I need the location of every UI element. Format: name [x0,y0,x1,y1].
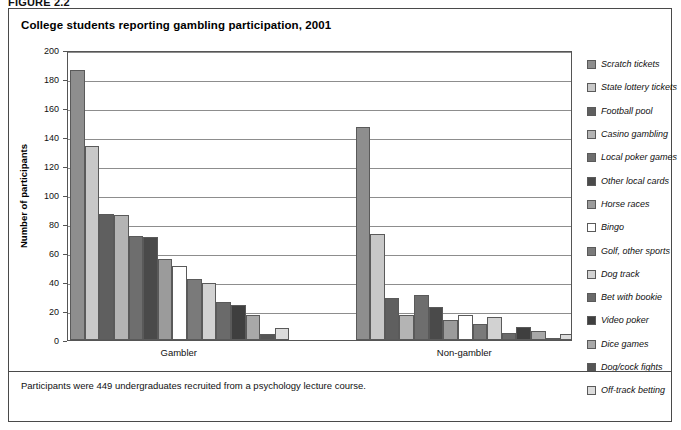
bar [429,307,444,340]
bar [458,315,473,340]
bar [216,302,231,340]
plot-area [67,51,572,341]
y-tick-label: 100 [33,191,59,201]
bar [231,305,246,340]
y-tick-label: 200 [33,46,59,56]
y-tick-label: 180 [33,75,59,85]
legend-item-label: Casino gambling [601,130,668,139]
footnote-divider [9,371,671,372]
bar [187,279,202,340]
legend-item-label: Local poker games [601,153,677,162]
legend-item[interactable]: Bingo [587,216,673,239]
bar [385,298,400,340]
bar [414,295,429,340]
gridline [68,52,571,53]
gridline [68,226,571,227]
legend-swatch-icon [587,83,596,92]
legend-item-label: Video poker [601,316,649,325]
bar [202,283,217,340]
legend-swatch-icon [587,107,596,116]
bar [531,331,546,340]
legend-item[interactable]: Bet with bookie [587,286,673,309]
legend-item[interactable]: Casino gambling [587,123,673,146]
plot-wrapper: Number of participants 02040608010012014… [67,51,572,356]
legend-item-label: Scratch tickets [601,60,660,69]
legend-swatch-icon [587,293,596,302]
legend-item[interactable]: Video poker [587,309,673,332]
legend-item[interactable]: Horse races [587,193,673,216]
legend-item[interactable]: Off-track betting [587,379,673,402]
legend-swatch-icon [587,130,596,139]
legend-item-label: Football pool [601,107,653,116]
footnote-text: Participants were 449 undergraduates rec… [21,380,366,391]
legend-swatch-icon [587,60,596,69]
legend-item-label: Bingo [601,223,624,232]
legend-item[interactable]: Golf, other sports [587,239,673,262]
legend-item-label: Other local cards [601,177,669,186]
y-tick-label: 120 [33,162,59,172]
bar [399,315,414,340]
legend-swatch-icon [587,340,596,349]
figure-root: FIGURE 2.2 College students reporting ga… [0,0,681,430]
x-axis-group-label: Gambler [161,347,197,358]
bar [275,328,290,340]
legend-swatch-icon [587,153,596,162]
x-axis-group-label: Non-gambler [437,347,492,358]
y-tick-label: 0 [33,336,59,346]
y-tick-label: 80 [33,220,59,230]
bar [172,266,187,340]
bar [370,234,385,340]
legend-item[interactable]: Local poker games [587,146,673,169]
legend-item[interactable]: Football pool [587,100,673,123]
y-axis-title: Number of participants [18,144,29,248]
chart-title: College students reporting gambling part… [21,19,331,31]
y-tick-mark [63,341,67,342]
gridline [68,110,571,111]
legend-swatch-icon [587,223,596,232]
legend-swatch-icon [587,247,596,256]
chart-legend: Scratch ticketsState lottery ticketsFoot… [587,53,673,402]
bar [260,334,275,340]
bar [516,327,531,340]
legend-item[interactable]: Dice games [587,333,673,356]
gridline [68,168,571,169]
legend-item[interactable]: Dog/cock fights [587,356,673,379]
figure-number: FIGURE 2.2 [8,0,70,8]
bar [99,214,114,340]
bar [114,215,129,340]
legend-item-label: Golf, other sports [601,247,670,256]
legend-swatch-icon [587,386,596,395]
bar [560,334,572,340]
bar [158,259,173,340]
legend-item-label: Dog track [601,270,640,279]
bar [487,317,502,340]
legend-item[interactable]: Dog track [587,263,673,286]
gridline [68,81,571,82]
legend-swatch-icon [587,316,596,325]
legend-swatch-icon [587,177,596,186]
bar [473,324,488,340]
legend-item-label: Dice games [601,340,649,349]
gridline [68,139,571,140]
bar [356,127,371,340]
bar [85,146,100,340]
bar [443,320,458,340]
legend-item[interactable]: State lottery tickets [587,76,673,99]
legend-item[interactable]: Scratch tickets [587,53,673,76]
y-tick-label: 20 [33,307,59,317]
bar [70,70,85,340]
legend-item-label: Bet with bookie [601,293,662,302]
legend-swatch-icon [587,270,596,279]
y-tick-label: 160 [33,104,59,114]
y-tick-label: 140 [33,133,59,143]
y-tick-label: 60 [33,249,59,259]
gridline [68,197,571,198]
legend-item-label: Horse races [601,200,650,209]
legend-swatch-icon [587,200,596,209]
legend-item[interactable]: Other local cards [587,169,673,192]
bar [129,236,144,340]
legend-item-label: Off-track betting [601,386,665,395]
bar [502,333,517,340]
bar [246,315,261,340]
legend-item-label: State lottery tickets [601,83,677,92]
